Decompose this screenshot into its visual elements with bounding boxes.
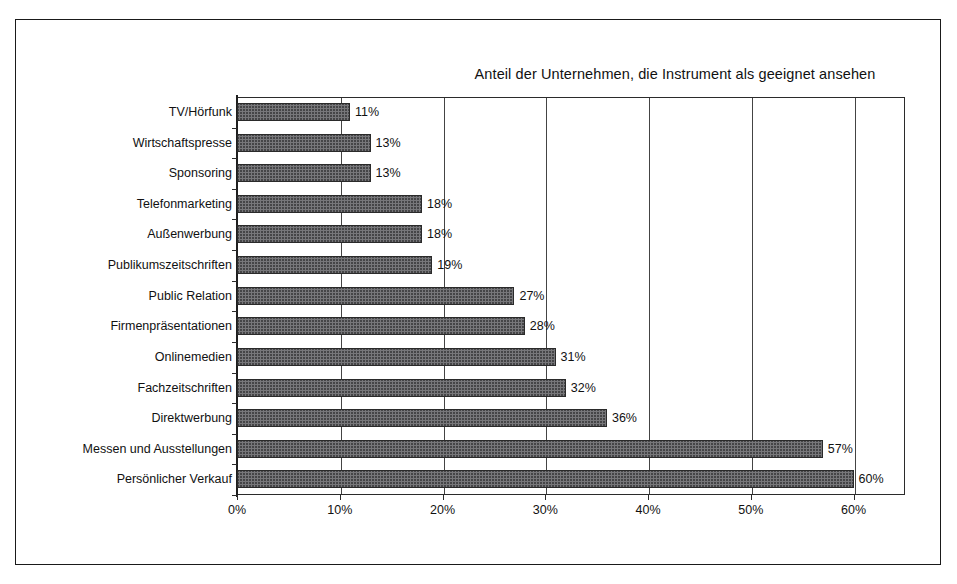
- category-label: Public Relation: [149, 281, 232, 312]
- bar-value-label: 32%: [571, 379, 596, 397]
- bar-row: 19%: [237, 250, 905, 281]
- bar-value-label: 18%: [427, 195, 452, 213]
- category-label: Publikumszeitschriften: [108, 250, 232, 281]
- bar-row: 18%: [237, 219, 905, 250]
- category-axis-labels: TV/HörfunkWirtschaftspresseSponsoringTel…: [20, 97, 232, 495]
- bar[interactable]: [237, 134, 371, 152]
- bar[interactable]: [237, 348, 556, 366]
- value-axis-labels: 0%10%20%30%40%50%60%: [237, 503, 905, 523]
- category-label: Messen und Ausstellungen: [83, 434, 232, 465]
- x-axis-tick: [545, 495, 546, 500]
- bar-value-label: 13%: [376, 164, 401, 182]
- bar-series: 11%13%13%18%18%19%27%28%31%32%36%57%60%: [237, 97, 905, 495]
- bar-value-label: 57%: [828, 440, 853, 458]
- x-axis-tick-label: 50%: [738, 503, 763, 517]
- bar-value-label: 27%: [519, 287, 544, 305]
- chart-title: Anteil der Unternehmen, die Instrument a…: [440, 66, 910, 82]
- bar-row: 32%: [237, 373, 905, 404]
- bar[interactable]: [237, 225, 422, 243]
- bar-value-label: 18%: [427, 225, 452, 243]
- bar[interactable]: [237, 470, 854, 488]
- bar-value-label: 36%: [612, 409, 637, 427]
- x-axis-tick: [340, 495, 341, 500]
- bar-row: 18%: [237, 189, 905, 220]
- category-label: Außenwerbung: [147, 219, 232, 250]
- category-label: Direktwerbung: [151, 403, 232, 434]
- bar[interactable]: [237, 317, 525, 335]
- bar[interactable]: [237, 103, 350, 121]
- x-axis-tick: [854, 495, 855, 500]
- bar-row: 57%: [237, 434, 905, 465]
- bar-row: 28%: [237, 311, 905, 342]
- category-label: Firmenpräsentationen: [110, 311, 232, 342]
- category-label: Sponsoring: [169, 158, 232, 189]
- x-axis-tick-label: 30%: [533, 503, 558, 517]
- bar-row: 60%: [237, 464, 905, 495]
- bar[interactable]: [237, 409, 607, 427]
- category-label: TV/Hörfunk: [169, 97, 232, 128]
- bar-row: 11%: [237, 97, 905, 128]
- bar[interactable]: [237, 195, 422, 213]
- x-axis-tick: [443, 495, 444, 500]
- bar-value-label: 28%: [530, 317, 555, 335]
- x-axis-tick-label: 60%: [841, 503, 866, 517]
- x-axis-tick-label: 0%: [228, 503, 246, 517]
- x-axis-tick: [237, 495, 238, 500]
- bar-value-label: 19%: [437, 256, 462, 274]
- x-axis-tick-label: 10%: [327, 503, 352, 517]
- bar-row: 13%: [237, 158, 905, 189]
- bar-row: 31%: [237, 342, 905, 373]
- bar-row: 13%: [237, 128, 905, 159]
- bar[interactable]: [237, 256, 432, 274]
- bar-value-label: 31%: [561, 348, 586, 366]
- category-label: Onlinemedien: [155, 342, 232, 373]
- bar-row: 36%: [237, 403, 905, 434]
- x-axis-tick: [751, 495, 752, 500]
- category-label: Persönlicher Verkauf: [117, 464, 232, 495]
- category-label: Telefonmarketing: [137, 189, 232, 220]
- bar[interactable]: [237, 379, 566, 397]
- category-label: Wirtschaftspresse: [133, 128, 232, 159]
- bar-value-label: 11%: [355, 103, 379, 121]
- category-label: Fachzeitschriften: [138, 373, 232, 404]
- x-axis-tick-label: 40%: [636, 503, 661, 517]
- bar-value-label: 13%: [376, 134, 401, 152]
- bar-value-label: 60%: [859, 470, 884, 488]
- bar[interactable]: [237, 440, 823, 458]
- bar[interactable]: [237, 164, 371, 182]
- bar[interactable]: [237, 287, 514, 305]
- x-axis-tick-label: 20%: [430, 503, 455, 517]
- x-axis-tick: [648, 495, 649, 500]
- bar-row: 27%: [237, 281, 905, 312]
